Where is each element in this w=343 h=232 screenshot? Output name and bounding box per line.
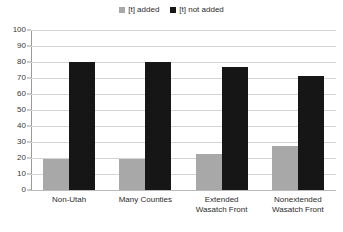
bar-group bbox=[184, 30, 260, 190]
y-axis-tick-label: 80 bbox=[17, 58, 26, 66]
bar-chart: [t] added[t] not added 10090807060504030… bbox=[0, 0, 343, 232]
bar-group bbox=[260, 30, 336, 190]
x-axis-category-label: Many Counties bbox=[107, 195, 183, 215]
legend-item[interactable]: [t] not added bbox=[170, 6, 223, 14]
chart-legend: [t] added[t] not added bbox=[0, 4, 343, 16]
bar[interactable] bbox=[272, 146, 298, 190]
x-axis-category-labels: Non-UtahMany CountiesExtended Wasatch Fr… bbox=[31, 195, 336, 215]
bar[interactable] bbox=[119, 159, 145, 190]
y-axis-tick-label: 30 bbox=[17, 138, 26, 146]
bar[interactable] bbox=[145, 62, 171, 190]
bar-group bbox=[31, 30, 107, 190]
bar-series-container bbox=[31, 30, 336, 190]
y-axis-tick-label: 0 bbox=[22, 186, 26, 194]
legend-item[interactable]: [t] added bbox=[119, 6, 159, 14]
bar[interactable] bbox=[298, 76, 324, 190]
y-axis-tick-label: 70 bbox=[17, 74, 26, 82]
y-axis-tick-label: 90 bbox=[17, 42, 26, 50]
y-axis-tick-label: 40 bbox=[17, 122, 26, 130]
plot-area bbox=[31, 30, 336, 190]
y-axis-tick-label: 60 bbox=[17, 90, 26, 98]
bar[interactable] bbox=[222, 67, 248, 190]
y-axis-tick-labels: 1009080706050403020100 bbox=[0, 30, 31, 190]
y-axis-tick-label: 50 bbox=[17, 106, 26, 114]
y-axis-tick-label: 100 bbox=[13, 26, 26, 34]
y-axis-tick-label: 10 bbox=[17, 170, 26, 178]
legend-item-label: [t] not added bbox=[179, 6, 223, 14]
x-axis-category-label: Nonextended Wasatch Front bbox=[260, 195, 336, 215]
bar[interactable] bbox=[69, 62, 95, 190]
bar[interactable] bbox=[196, 154, 222, 190]
y-axis-tick-label: 20 bbox=[17, 154, 26, 162]
square-swatch-icon bbox=[170, 7, 176, 13]
bar[interactable] bbox=[43, 159, 69, 190]
square-swatch-icon bbox=[119, 7, 125, 13]
legend-item-label: [t] added bbox=[128, 6, 159, 14]
bar-group bbox=[107, 30, 183, 190]
x-axis-category-label: Non-Utah bbox=[31, 195, 107, 215]
x-axis-category-label: Extended Wasatch Front bbox=[184, 195, 260, 215]
gridline bbox=[31, 190, 336, 191]
